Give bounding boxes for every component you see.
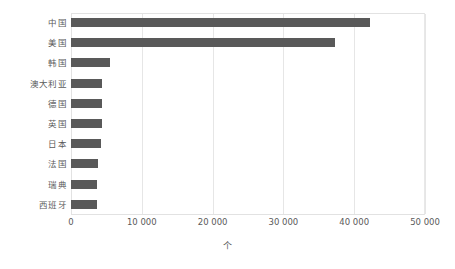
category-label: 澳大利亚: [0, 74, 67, 94]
category-label: 美国: [0, 33, 67, 53]
value-tick-label: 50 000: [410, 217, 440, 227]
bar[interactable]: [71, 38, 335, 47]
bar[interactable]: [71, 58, 110, 67]
bar-row: [71, 175, 425, 195]
category-label: 韩国: [0, 53, 67, 73]
category-label: 法国: [0, 154, 67, 174]
value-tick-label: 0: [68, 217, 73, 227]
bar[interactable]: [71, 99, 102, 108]
category-label: 日本: [0, 134, 67, 154]
bar-row: [71, 195, 425, 215]
category-label: 德国: [0, 94, 67, 114]
value-tick-label: 10 000: [127, 217, 157, 227]
value-tick-label: 20 000: [198, 217, 228, 227]
bar-row: [71, 33, 425, 53]
gridline-50000: [425, 14, 426, 214]
category-label: 瑞典: [0, 175, 67, 195]
bar-row: [71, 53, 425, 73]
bar-row: [71, 74, 425, 94]
category-label: 英国: [0, 114, 67, 134]
bars-layer: [71, 13, 425, 215]
bar[interactable]: [71, 79, 102, 88]
bar[interactable]: [71, 119, 102, 128]
category-label: 西班牙: [0, 195, 67, 215]
bar-row: [71, 13, 425, 33]
bar-chart: 中国美国韩国澳大利亚德国英国日本法国瑞典西班牙 010 00020 00030 …: [0, 0, 455, 269]
value-axis-tick-labels: 010 00020 00030 00040 00050 000: [0, 217, 455, 231]
bar-row: [71, 114, 425, 134]
bar[interactable]: [71, 180, 97, 189]
bar-row: [71, 94, 425, 114]
value-axis-title: 个: [0, 239, 455, 252]
value-tick-label: 40 000: [339, 217, 369, 227]
bar[interactable]: [71, 139, 101, 148]
bar[interactable]: [71, 200, 97, 209]
bar-row: [71, 134, 425, 154]
bar-row: [71, 154, 425, 174]
value-tick-label: 30 000: [269, 217, 299, 227]
category-label: 中国: [0, 13, 67, 33]
category-axis-labels: 中国美国韩国澳大利亚德国英国日本法国瑞典西班牙: [0, 13, 67, 215]
bar[interactable]: [71, 18, 370, 27]
bar[interactable]: [71, 159, 98, 168]
